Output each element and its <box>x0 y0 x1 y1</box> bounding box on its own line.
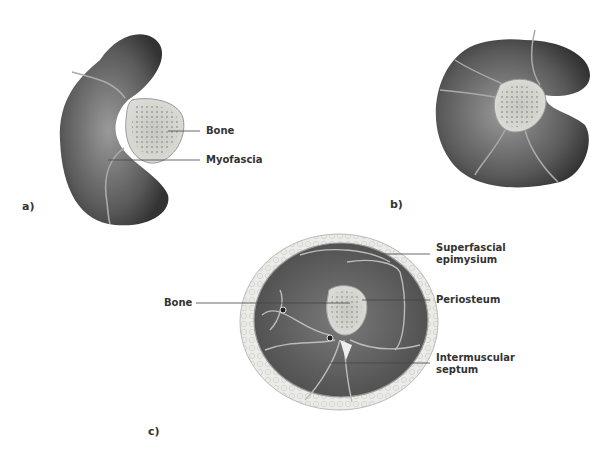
label-c-septum-line1: Intermuscular <box>436 352 515 364</box>
label-c-superfascial-line2: epimysium <box>436 254 506 266</box>
label-c-septum: Intermuscular septum <box>436 352 515 376</box>
panel-label-c: c) <box>148 425 160 438</box>
label-c-superfascial: Superfascial epimysium <box>436 242 506 266</box>
label-c-superfascial-line1: Superfascial <box>436 242 506 254</box>
label-c-bone: Bone <box>164 297 192 309</box>
panel-c-cross-section <box>240 234 438 410</box>
panel-label-a: a) <box>22 200 34 213</box>
label-c-periosteum: Periosteum <box>436 294 500 306</box>
label-a-bone: Bone <box>206 125 234 137</box>
panel-a-muscle <box>60 34 184 225</box>
panel-label-b: b) <box>390 198 403 211</box>
label-c-septum-line2: septum <box>436 364 515 376</box>
muscle-fascia-diagram <box>0 0 610 458</box>
panel-b-muscle <box>436 30 590 187</box>
label-a-myofascia: Myofascia <box>206 154 263 166</box>
